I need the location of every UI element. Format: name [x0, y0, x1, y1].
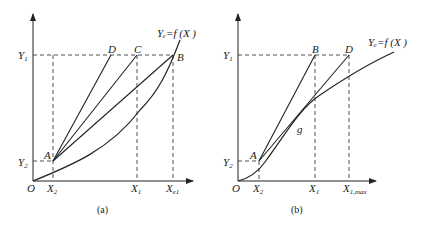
point-g: g [297, 123, 303, 135]
curve-label-a: Yₑ=f (X ) [157, 27, 196, 40]
diagram-canvas: Yₑ=f (X ) D C B A O Y1 Y2 X2 X1 Xe1 (a) … [0, 0, 421, 231]
xe1-tick: Xe1 [165, 182, 179, 196]
point-d: D [344, 43, 353, 55]
y2-tick: Y2 [18, 156, 28, 170]
x1-tick: X1 [308, 182, 319, 196]
point-c: D [107, 43, 116, 55]
x1-tick: X1 [130, 182, 141, 196]
x1max-tick: X1,max [342, 182, 368, 196]
chords [53, 55, 173, 161]
point-a: A [249, 149, 257, 161]
y1-tick: Y1 [223, 49, 233, 63]
chords [259, 55, 349, 161]
point-a: A [43, 149, 51, 161]
panel-a [33, 14, 193, 181]
point-b: B [312, 43, 319, 55]
point-d: B [177, 51, 184, 63]
curve-label-b: Yₑ=f (X ) [368, 36, 407, 49]
origin-label: O [27, 182, 35, 194]
origin-label: O [232, 182, 240, 194]
x2-tick: X2 [252, 182, 264, 196]
x2-tick: X2 [46, 182, 58, 196]
y2-tick: Y2 [223, 156, 233, 170]
equilibrium-curve [238, 52, 394, 181]
caption-a: (a) [97, 204, 108, 216]
point-b: C [134, 43, 142, 55]
caption-b: (b) [291, 204, 303, 216]
y1-tick: Y1 [18, 49, 28, 63]
